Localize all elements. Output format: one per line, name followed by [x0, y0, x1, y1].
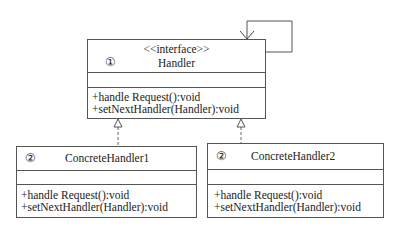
methods-section: +handle Request():void +setNextHandler(H… [17, 185, 196, 218]
attributes-section [88, 73, 265, 88]
realization-triangle-2 [237, 119, 245, 127]
class-name: Handler [88, 57, 265, 70]
realization-triangle-1 [114, 119, 122, 127]
attributes-section [17, 171, 196, 185]
class-concrete-handler-2: ② ConcreteHandler2 +handle Request():voi… [207, 143, 384, 218]
class-concrete-handler-1: ② ConcreteHandler1 +handle Request():voi… [16, 146, 197, 218]
class-number: ② [216, 150, 227, 163]
methods-section: +handle Request():void +setNextHandler(H… [88, 88, 265, 119]
class-header: ② ConcreteHandler1 [17, 147, 196, 171]
class-name: ConcreteHandler2 [251, 150, 335, 163]
method: +setNextHandler(Handler):void [21, 201, 168, 214]
method: +setNextHandler(Handler):void [214, 201, 361, 214]
class-handler: <<interface>> ① Handler +handle Request(… [87, 39, 266, 119]
attributes-section [208, 170, 383, 185]
class-name: ConcreteHandler1 [65, 152, 149, 165]
class-number: ② [25, 152, 36, 165]
methods-section: +handle Request():void +setNextHandler(H… [208, 185, 383, 218]
class-header: ② ConcreteHandler2 [208, 144, 383, 170]
class-header: <<interface>> ① Handler [88, 40, 265, 73]
method: +setNextHandler(Handler):void [92, 103, 239, 116]
